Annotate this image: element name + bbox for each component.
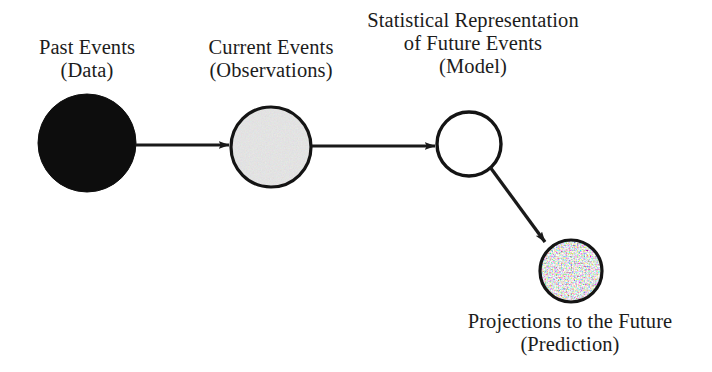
label-current-events: Current Events (Observations): [209, 36, 334, 82]
label-past-events: Past Events (Data): [39, 36, 135, 82]
label-past-events-line1: Past Events: [39, 36, 135, 59]
node-projection[interactable]: [540, 240, 602, 302]
label-current-events-line1: Current Events: [209, 36, 334, 59]
node-current-events[interactable]: [231, 107, 311, 187]
label-past-events-line2: (Data): [39, 59, 135, 82]
label-projection-line1: Projections to the Future: [468, 310, 673, 333]
node-past-events[interactable]: [38, 94, 136, 192]
label-model-line1: Statistical Representation: [367, 9, 579, 32]
label-projection-line2: (Prediction): [468, 333, 673, 356]
label-projection: Projections to the Future (Prediction): [468, 310, 673, 356]
label-model-line3: (Model): [367, 55, 579, 78]
diagram-canvas: Past Events (Data) Current Events (Obser…: [0, 0, 712, 372]
label-model: Statistical Representation of Future Eve…: [367, 9, 579, 78]
arrow-model-to-projection: [490, 167, 545, 242]
label-model-line2: of Future Events: [367, 32, 579, 55]
label-current-events-line2: (Observations): [209, 59, 334, 82]
